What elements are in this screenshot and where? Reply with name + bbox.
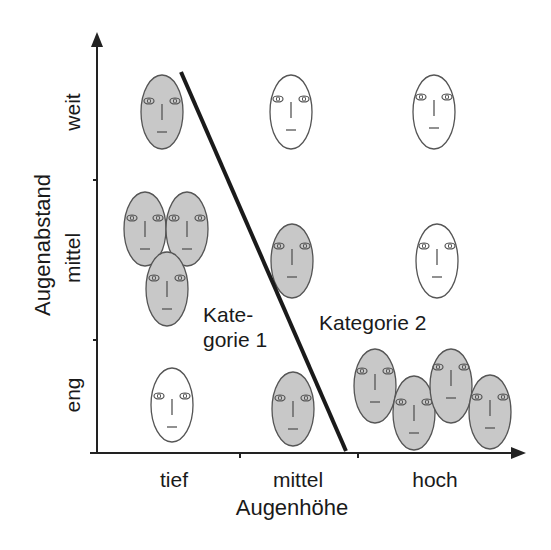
faces <box>124 75 511 450</box>
face-white <box>416 224 458 298</box>
face-white <box>270 75 312 149</box>
y-axis <box>91 32 103 452</box>
x-tick-label-tief: tief <box>160 468 188 491</box>
face-gray <box>393 376 435 450</box>
face-gray <box>141 75 183 149</box>
category-1-label-line1: Kate- <box>203 303 253 326</box>
face-gray <box>469 375 511 449</box>
face-categorization-diagram: Augenabstand weit mittel eng tief mittel… <box>0 0 551 550</box>
x-axis-title: Augenhöhe <box>236 495 349 520</box>
category-1-label-line2: gorie 1 <box>203 328 267 351</box>
face-white <box>151 368 193 442</box>
face-gray <box>271 224 313 298</box>
face-gray <box>146 252 188 326</box>
face-gray <box>272 372 314 446</box>
y-tick-label-weit: weit <box>61 93 84 132</box>
face-white <box>413 75 455 149</box>
y-tick-label-eng: eng <box>61 377 84 412</box>
y-axis-title: Augenabstand <box>30 174 55 316</box>
x-axis-arrow-icon <box>511 447 526 459</box>
category-separator-line <box>181 72 346 451</box>
x-axis <box>90 447 526 459</box>
category-2-label: Kategorie 2 <box>319 311 426 334</box>
y-axis-arrow-icon <box>91 32 103 47</box>
x-tick-label-hoch: hoch <box>412 468 458 491</box>
x-tick-label-mittel: mittel <box>273 468 323 491</box>
face-gray <box>430 349 472 423</box>
face-gray <box>354 349 396 423</box>
y-tick-label-mittel: mittel <box>61 233 84 283</box>
